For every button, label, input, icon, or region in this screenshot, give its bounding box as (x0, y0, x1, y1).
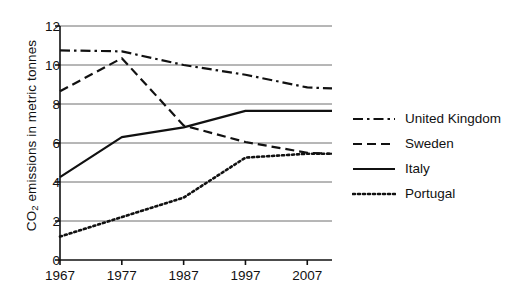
legend-item-label: Sweden (405, 136, 454, 151)
y-tick-label: 2 (30, 214, 60, 229)
y-tick-label: 6 (30, 136, 60, 151)
x-tick-label: 1987 (169, 268, 199, 283)
series-line-italy (60, 111, 332, 177)
co2-emissions-line-chart: CO2 emissions in metric tonnes 024681012… (0, 0, 527, 307)
y-tick-label: 8 (30, 97, 60, 112)
legend-item-label: Italy (405, 161, 430, 176)
legend-item-sweden[interactable]: Sweden (352, 131, 524, 156)
legend-line-swatch (352, 163, 396, 175)
x-tick-label: 1997 (230, 268, 260, 283)
x-tick-label: 2007 (292, 268, 322, 283)
y-tick-label: 10 (30, 58, 60, 73)
legend-item-label: United Kingdom (405, 111, 501, 126)
y-tick-label: 4 (30, 175, 60, 190)
legend-line-swatch (352, 113, 396, 125)
y-tick-label: 12 (30, 19, 60, 34)
y-axis-ticks: 024681012 (28, 0, 60, 307)
legend-item-italy[interactable]: Italy (352, 156, 524, 181)
legend-item-portugal[interactable]: Portugal (352, 181, 524, 206)
series-line-sweden (60, 58, 332, 154)
legend-item-label: Portugal (405, 186, 455, 201)
legend-item-united-kingdom[interactable]: United Kingdom (352, 106, 524, 131)
chart-legend: United KingdomSwedenItalyPortugal (352, 106, 524, 206)
legend-line-swatch (352, 138, 396, 150)
series-line-portugal (60, 154, 332, 237)
x-tick-label: 1967 (45, 268, 75, 283)
x-tick-label: 1977 (107, 268, 137, 283)
legend-line-swatch (352, 188, 396, 200)
y-tick-label: 0 (30, 253, 60, 268)
